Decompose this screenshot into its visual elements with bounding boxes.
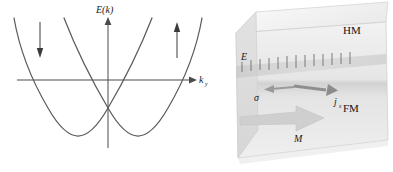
- k-axis-arrowhead: [189, 77, 197, 84]
- figure-container: E(k) k y: [0, 0, 393, 172]
- spin-down-arrow-head: [37, 48, 43, 58]
- block-3d: [236, 2, 388, 164]
- block-front-face: [236, 22, 388, 158]
- energy-axis-arrowhead: [105, 17, 112, 25]
- bilayer-svg: HM FM E σ j s M: [216, 0, 393, 172]
- spin-up-arrow: [174, 22, 180, 58]
- spin-up-arrow-head: [174, 22, 180, 32]
- bilayer-block-panel: HM FM E σ j s M: [216, 0, 393, 172]
- rashba-band-panel: E(k) k y: [0, 0, 216, 172]
- band-curve-spin-down: [14, 18, 152, 136]
- label-electric-field: E: [240, 51, 247, 62]
- spin-down-arrow: [37, 22, 43, 58]
- k-axis: [17, 77, 197, 84]
- energy-axis: [105, 17, 112, 148]
- label-heavy-metal: HM: [343, 24, 361, 36]
- band-curve-spin-up: [64, 18, 202, 136]
- energy-axis-label: E(k): [95, 4, 114, 16]
- band-diagram-svg: E(k) k y: [0, 0, 216, 172]
- k-axis-label-subscript: y: [204, 81, 208, 87]
- k-axis-label: k: [199, 74, 204, 85]
- k-axis-label-group: k y: [199, 74, 208, 87]
- label-magnetization: M: [293, 133, 303, 144]
- label-ferromagnet: FM: [343, 102, 359, 114]
